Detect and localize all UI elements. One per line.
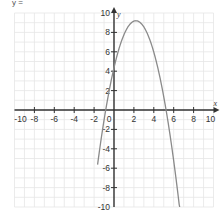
svg-text:2: 2 [132,114,137,124]
svg-text:-6: -6 [102,163,110,173]
svg-text:-6: -6 [51,114,59,124]
svg-text:6: 6 [171,114,176,124]
svg-text:-8: -8 [31,114,39,124]
svg-text:4: 4 [151,114,156,124]
y-axis-label: y [116,10,121,19]
svg-text:-2: -2 [90,114,98,124]
coordinate-plane: y = -10-8-6-4-20246810-10-8-6-4-2246810 … [0,0,221,215]
axes [15,7,220,207]
svg-text:-10: -10 [98,202,111,212]
svg-text:0: 0 [107,114,112,124]
svg-text:-10: -10 [14,114,27,124]
equation-fragment: y = [12,0,23,7]
svg-text:4: 4 [105,66,110,76]
svg-text:6: 6 [105,47,110,57]
svg-text:8: 8 [105,27,110,37]
svg-text:-4: -4 [102,144,110,154]
svg-text:-8: -8 [102,183,110,193]
x-axis-label: x [213,99,218,108]
svg-text:10: 10 [101,8,111,18]
svg-text:-4: -4 [70,114,78,124]
svg-text:8: 8 [191,114,196,124]
svg-text:10: 10 [206,114,216,124]
